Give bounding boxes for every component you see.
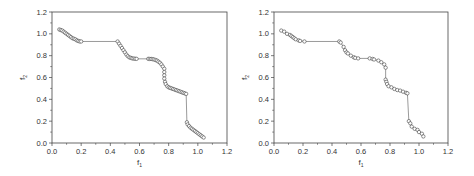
y-tick-label: 0.0 <box>259 139 269 148</box>
data-point-marker <box>163 67 166 70</box>
x-tick-label: 0.0 <box>47 147 57 156</box>
x-tick-label: 0.6 <box>134 147 144 156</box>
x-tick-label: 0.6 <box>356 147 366 156</box>
data-point-marker <box>163 77 166 80</box>
data-point-marker <box>282 30 285 33</box>
plot-frame <box>274 12 448 143</box>
y-tick-label: 0.2 <box>259 117 269 126</box>
y-tick-label: 1.2 <box>37 8 47 17</box>
data-point-marker <box>135 57 138 60</box>
y-tick-label: 0.6 <box>37 73 47 82</box>
y-tick-label: 0.6 <box>259 73 269 82</box>
x-tick-label: 1.2 <box>222 147 232 156</box>
data-point-marker <box>184 92 187 95</box>
series-line <box>281 31 423 137</box>
x-tick-label: 0.8 <box>385 147 395 156</box>
x-tick-label: 1.2 <box>443 147 453 156</box>
y-tick-label: 1.2 <box>259 8 269 17</box>
data-point-marker <box>372 58 375 61</box>
data-point-marker <box>422 135 425 138</box>
data-point-marker <box>163 74 166 77</box>
data-point-marker <box>303 40 306 43</box>
y-tick-label: 0.4 <box>37 95 47 104</box>
x-tick-label: 0.2 <box>76 147 86 156</box>
data-point-marker <box>339 41 342 44</box>
data-point-marker <box>409 122 412 125</box>
x-tick-label: 0.8 <box>163 147 173 156</box>
chart-panel-right: 0.00.20.40.60.81.01.20.00.20.40.60.81.01… <box>240 8 453 168</box>
y-tick-label: 0.4 <box>259 95 269 104</box>
x-tick-label: 0.2 <box>298 147 308 156</box>
x-axis-label: f1 <box>137 158 142 168</box>
y-tick-label: 0.2 <box>37 117 47 126</box>
plot-frame <box>52 12 227 143</box>
x-axis-label: f1 <box>358 158 363 168</box>
y-tick-label: 1.0 <box>259 29 269 38</box>
data-point-marker <box>383 63 386 66</box>
x-tick-label: 0.4 <box>327 147 337 156</box>
data-point-marker <box>346 52 349 55</box>
chart-canvas: 0.00.20.40.60.81.01.20.00.20.40.60.81.01… <box>0 0 474 176</box>
figure: 0.00.20.40.60.81.01.20.00.20.40.60.81.01… <box>0 0 474 176</box>
x-tick-label: 0.4 <box>105 147 115 156</box>
data-point-marker <box>298 39 301 42</box>
data-point-marker <box>79 40 82 43</box>
x-tick-label: 1.0 <box>193 147 203 156</box>
data-point-marker <box>356 57 359 60</box>
y-tick-label: 0.0 <box>37 139 47 148</box>
y-axis-label: f2 <box>18 75 28 80</box>
data-point-marker <box>342 45 345 48</box>
data-point-marker <box>384 66 387 69</box>
y-tick-label: 0.8 <box>37 51 47 60</box>
data-point-marker <box>410 125 413 128</box>
y-tick-label: 0.8 <box>259 51 269 60</box>
chart-panel-left: 0.00.20.40.60.81.01.20.00.20.40.60.81.01… <box>18 8 232 168</box>
y-tick-label: 1.0 <box>37 29 47 38</box>
x-tick-label: 0.0 <box>269 147 279 156</box>
data-point-marker <box>163 70 166 73</box>
data-point-marker <box>406 92 409 95</box>
series-line <box>59 29 203 137</box>
y-axis-label: f2 <box>240 75 250 80</box>
data-point-marker <box>380 61 383 64</box>
data-point-marker <box>202 136 205 139</box>
x-tick-label: 1.0 <box>414 147 424 156</box>
